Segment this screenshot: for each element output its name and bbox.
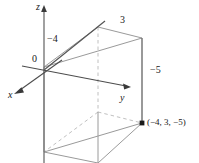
point-coordinates-label: (−4, 3, −5) <box>147 118 186 127</box>
rear-bottom-left-dashed-edge <box>44 112 98 152</box>
y-axis-label: y <box>120 93 124 103</box>
bottom-left-edge <box>44 152 98 163</box>
y-distance-label: 3 <box>120 15 125 25</box>
origin-to-corner-segment <box>44 21 105 70</box>
bottom-front-edge <box>44 123 142 152</box>
hidden-edges-group <box>44 27 142 152</box>
origin-label: 0 <box>32 54 37 64</box>
y-axis-arrowhead <box>123 83 131 89</box>
z-distance-label: −5 <box>150 65 161 75</box>
top-rear-edge <box>98 27 142 38</box>
z-axis-label: z <box>36 2 40 12</box>
coordinate-system-figure: z x y 0 −4 3 −5 (−4, 3, −5) <box>0 0 199 163</box>
figure-graphics <box>0 0 199 163</box>
box-edges-group <box>44 27 142 163</box>
x-distance-label: −4 <box>47 34 58 44</box>
point-marker <box>140 121 145 126</box>
rear-bottom-right-dashed-edge <box>98 112 142 123</box>
z-axis-arrowhead <box>41 5 47 12</box>
y-axis-line <box>22 66 126 86</box>
x-axis-label: x <box>8 90 12 100</box>
x-axis-line <box>20 60 62 90</box>
